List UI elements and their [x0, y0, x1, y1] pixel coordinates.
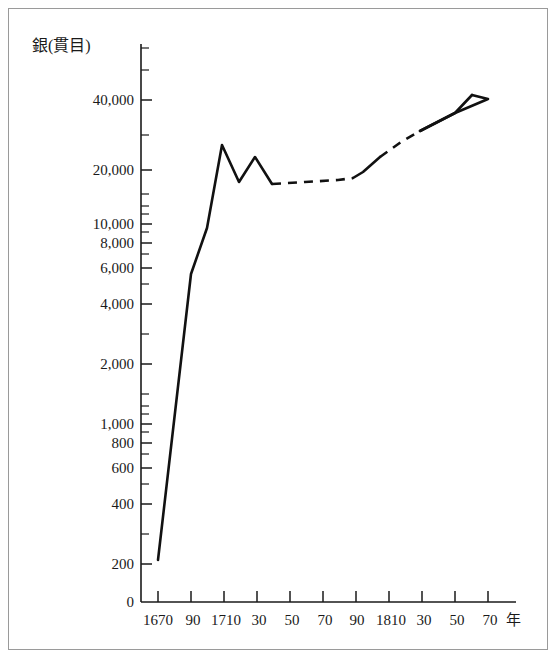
y-tick-label-6000: 6,000: [52, 261, 134, 276]
x-tick-label-1850: 50: [450, 613, 465, 628]
x-ticks: [158, 591, 488, 602]
y-major-ticks: [141, 100, 152, 564]
y-tick-label-400: 400: [52, 497, 134, 512]
y-tick-label-4000: 4,000: [52, 297, 134, 312]
x-tick-label-1770: 70: [318, 613, 333, 628]
series-dashed-mid: [272, 178, 353, 184]
y-tick-label-40000: 40,000: [52, 93, 134, 108]
x-tick-label-1670: 1670: [143, 613, 173, 628]
y-tick-label-2000: 2,000: [52, 357, 134, 372]
series-solid-tail: [420, 95, 472, 131]
y-tick-label-20000: 20,000: [52, 163, 134, 178]
y-tick-label-8000: 8,000: [52, 236, 134, 251]
x-axis-title: 年: [506, 613, 521, 628]
x-tick-label-1690: 90: [186, 613, 201, 628]
x-tick-label-1750: 50: [285, 613, 300, 628]
x-tick-label-1810: 1810: [376, 613, 406, 628]
y-tick-label-800: 800: [52, 436, 134, 451]
x-tick-label-1870: 70: [483, 613, 498, 628]
series-solid-early: [158, 145, 272, 560]
x-tick-label-1710: 1710: [211, 613, 241, 628]
series-dashed-late: [380, 131, 420, 157]
y-tick-label-1000: 1,000: [52, 417, 134, 432]
y-minor-ticks: [141, 48, 149, 534]
y-tick-label-0: 0: [52, 595, 134, 610]
y-tick-label-10000: 10,000: [52, 217, 134, 232]
y-tick-label-600: 600: [52, 461, 134, 476]
y-tick-label-200: 200: [52, 557, 134, 572]
x-tick-label-1730: 30: [252, 613, 267, 628]
y-axis-title: 銀(貫目): [32, 38, 91, 54]
series-solid-mid: [353, 157, 380, 178]
figure-root: 銀(貫目) 40,000 20,000 10,000 8,000 6,000 4…: [0, 0, 557, 659]
x-tick-label-1830: 30: [417, 613, 432, 628]
x-tick-label-1790: 90: [350, 613, 365, 628]
